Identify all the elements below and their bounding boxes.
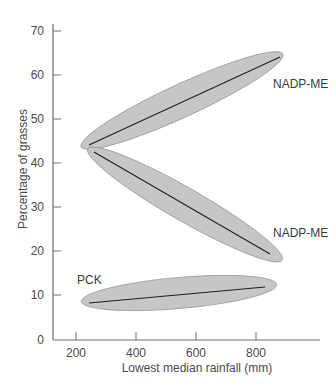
y-tick-label: 0 bbox=[37, 333, 44, 347]
envelopes bbox=[74, 39, 290, 317]
y-tick-label: 40 bbox=[31, 156, 45, 170]
x-axis: 200 400 600 800 Lowest median rainfall (… bbox=[53, 332, 320, 375]
x-axis-title: Lowest median rainfall (mm) bbox=[122, 361, 273, 375]
x-tick-label: 400 bbox=[126, 346, 146, 360]
y-axis-title: Percentage of grasses bbox=[16, 109, 30, 229]
series-label-nadp-me-lower: NADP-ME bbox=[273, 226, 328, 240]
x-tick-label: 800 bbox=[246, 346, 266, 360]
nadp-me-upper-envelope bbox=[74, 39, 289, 162]
x-tick-label: 600 bbox=[186, 346, 206, 360]
nadp-me-upper-trend-line bbox=[89, 57, 280, 145]
y-tick-label: 70 bbox=[31, 24, 45, 38]
nadp-me-lower-trend-line bbox=[94, 152, 270, 254]
y-axis: 70 60 50 40 30 20 10 0 Percentage of gra… bbox=[16, 24, 61, 347]
y-tick-label: 60 bbox=[31, 68, 45, 82]
chart: 70 60 50 40 30 20 10 0 Percentage of gra… bbox=[0, 0, 336, 389]
series-label-pck: PCK bbox=[77, 273, 102, 287]
y-tick-label: 20 bbox=[31, 244, 45, 258]
y-tick-label: 10 bbox=[31, 288, 45, 302]
y-tick-label: 30 bbox=[31, 200, 45, 214]
x-tick-label: 200 bbox=[66, 346, 86, 360]
pck-envelope bbox=[80, 269, 278, 317]
y-tick-label: 50 bbox=[31, 112, 45, 126]
series-label-nadp-me-upper: NADP-ME bbox=[273, 77, 328, 91]
